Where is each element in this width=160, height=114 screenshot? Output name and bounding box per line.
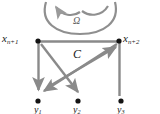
label-omega: Ω (73, 16, 80, 26)
node-y-1 (35, 98, 40, 103)
node-x-n-plus-1 (35, 38, 40, 43)
label-y-2: y2 (73, 105, 81, 114)
node-y-2 (75, 98, 80, 103)
omega-right-arc (82, 6, 108, 15)
label-x-n-plus-2: xn+2 (123, 33, 139, 45)
label-y-3: y3 (117, 105, 125, 114)
figure-container: xn+1 xn+2 C Ω y1 y2 y3 (0, 0, 160, 114)
node-y-3 (118, 98, 123, 103)
label-y-1: y1 (34, 105, 42, 114)
label-region-c: C (73, 48, 81, 60)
label-x-n-plus-1: xn+1 (2, 33, 18, 45)
omega-outer-arc (45, 2, 116, 34)
omega-left-arc (56, 7, 80, 15)
omega-arc-group (45, 2, 116, 34)
node-x-n-plus-2 (116, 38, 121, 43)
